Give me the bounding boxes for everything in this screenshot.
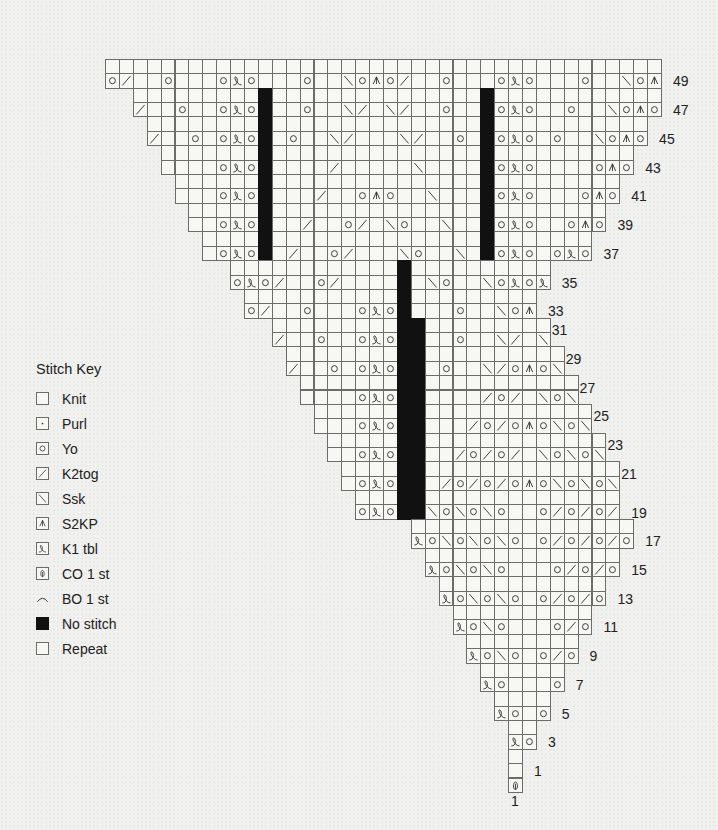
no-stitch-cell xyxy=(480,160,495,175)
chart-cell xyxy=(411,73,426,88)
chart-cell xyxy=(592,73,607,88)
chart-cell xyxy=(564,131,579,146)
chart-cell xyxy=(244,303,259,318)
chart-cell xyxy=(550,246,565,261)
chart-cell xyxy=(411,289,426,304)
chart-cell xyxy=(466,591,481,606)
chart-cell xyxy=(605,102,620,117)
chart-cell xyxy=(605,504,620,519)
chart-cell xyxy=(216,231,231,246)
chart-cell xyxy=(536,476,551,491)
chart-cell xyxy=(508,346,523,361)
chart-cell xyxy=(202,73,217,88)
yarn-over-icon xyxy=(217,189,230,202)
chart-cell xyxy=(536,332,551,347)
legend-label: K2tog xyxy=(62,466,99,482)
row-number-label: 9 xyxy=(590,649,598,663)
chart-cell xyxy=(425,390,440,405)
chart-cell xyxy=(327,145,342,160)
chart-cell xyxy=(314,289,329,304)
chart-cell xyxy=(508,289,523,304)
chart-cell xyxy=(397,116,412,131)
chart-cell xyxy=(578,73,593,88)
row-number-label: 15 xyxy=(631,563,647,577)
no-stitch-cell xyxy=(411,390,426,405)
chart-cell xyxy=(619,160,634,175)
ssk-icon xyxy=(481,620,494,633)
chart-cell xyxy=(369,318,384,333)
chart-cell xyxy=(466,260,481,275)
chart-cell xyxy=(536,591,551,606)
chart-cell xyxy=(105,59,120,74)
chart-cell xyxy=(466,619,481,634)
chart-cell xyxy=(522,131,537,146)
ssk-icon xyxy=(398,132,411,145)
chart-cell xyxy=(453,102,468,117)
chart-cell xyxy=(536,116,551,131)
chart-cell xyxy=(466,73,481,88)
no-stitch-cell xyxy=(411,375,426,390)
chart-cell xyxy=(453,447,468,462)
chart-cell xyxy=(550,490,565,505)
chart-cell xyxy=(592,576,607,591)
chart-cell xyxy=(453,73,468,88)
chart-cell xyxy=(480,433,495,448)
chart-cell xyxy=(466,318,481,333)
chart-cell xyxy=(564,102,579,117)
chart-cell xyxy=(550,375,565,390)
chart-cell xyxy=(508,361,523,376)
ssk-icon xyxy=(495,304,508,317)
yarn-over-icon xyxy=(301,74,314,87)
chart-cell xyxy=(425,346,440,361)
chart-cell xyxy=(327,289,342,304)
no-stitch-cell xyxy=(258,160,273,175)
chart-cell xyxy=(383,289,398,304)
chart-cell xyxy=(480,648,495,663)
chart-cell xyxy=(522,576,537,591)
no-stitch-cell xyxy=(411,404,426,419)
chart-cell xyxy=(355,174,370,189)
chart-cell xyxy=(300,275,315,290)
chart-cell xyxy=(522,346,537,361)
chart-cell xyxy=(536,691,551,706)
yarn-over-icon xyxy=(523,103,536,116)
chart-cell xyxy=(327,390,342,405)
chart-cell xyxy=(564,519,579,534)
chart-cell xyxy=(564,231,579,246)
chart-cell xyxy=(369,131,384,146)
yarn-over-icon xyxy=(301,304,314,317)
chart-cell xyxy=(230,231,245,246)
k1-tbl-icon xyxy=(565,247,578,260)
chart-cell xyxy=(355,504,370,519)
legend-label: S2KP xyxy=(62,516,98,532)
chart-cell xyxy=(286,59,301,74)
chart-cell xyxy=(578,102,593,117)
chart-cell xyxy=(411,303,426,318)
chart-cell xyxy=(592,433,607,448)
chart-cell xyxy=(314,231,329,246)
chart-cell xyxy=(508,131,523,146)
chart-cell xyxy=(272,217,287,232)
chart-cell xyxy=(522,303,537,318)
chart-cell xyxy=(425,433,440,448)
chart-cell xyxy=(369,490,384,505)
chart-cell xyxy=(592,188,607,203)
chart-cell xyxy=(272,260,287,275)
chart-cell xyxy=(466,188,481,203)
chart-cell xyxy=(592,519,607,534)
chart-cell xyxy=(564,476,579,491)
no-stitch-cell xyxy=(411,346,426,361)
chart-cell xyxy=(327,447,342,462)
yarn-over-icon xyxy=(495,74,508,87)
chart-cell xyxy=(536,447,551,462)
chart-cell xyxy=(466,404,481,419)
chart-cell xyxy=(314,303,329,318)
chart-cell xyxy=(119,73,134,88)
yarn-over-icon xyxy=(579,563,592,576)
k2tog-icon xyxy=(467,477,480,490)
yarn-over-icon xyxy=(579,189,592,202)
chart-cell xyxy=(439,102,454,117)
chart-cell xyxy=(244,116,259,131)
chart-cell xyxy=(494,476,509,491)
chart-cell xyxy=(578,619,593,634)
